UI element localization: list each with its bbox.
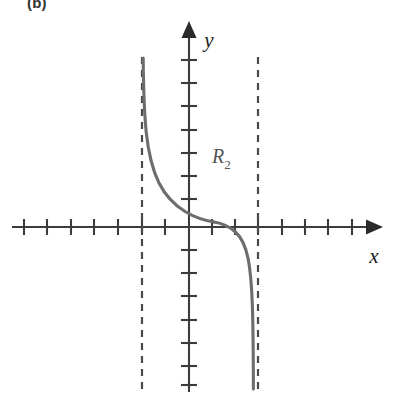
- curve-right-branch: [214, 222, 253, 389]
- figure-container: (b) x: [0, 0, 399, 401]
- curve-left-branch: [143, 58, 214, 222]
- x-axis-group: x: [12, 219, 383, 268]
- region-label-base: R: [211, 145, 224, 167]
- x-axis-label: x: [368, 244, 379, 268]
- y-axis-label: y: [202, 28, 214, 52]
- region-label-subscript: 2: [224, 157, 231, 172]
- region-label-r2: R2: [211, 145, 231, 172]
- graph-plot: x y: [0, 0, 399, 401]
- y-axis-group: y: [181, 21, 214, 392]
- asymptotes-group: [142, 57, 258, 389]
- x-axis-arrowhead: [366, 220, 383, 235]
- function-curve-group: [143, 58, 253, 389]
- y-axis-arrowhead: [182, 21, 197, 38]
